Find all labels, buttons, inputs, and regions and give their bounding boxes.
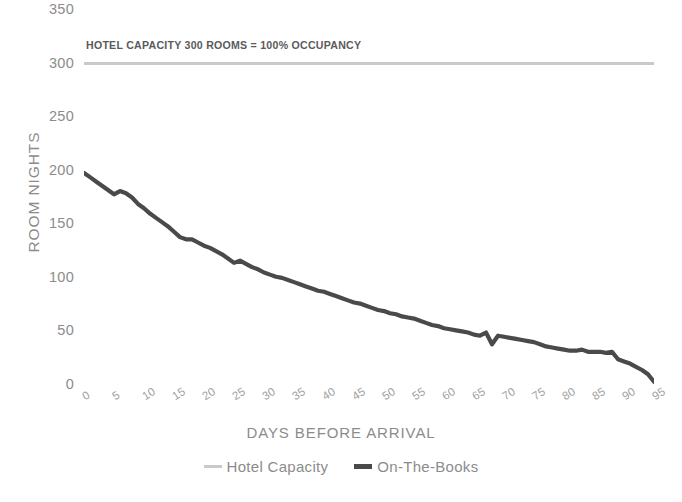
x-tick-50: 50 <box>380 385 397 402</box>
x-tick-65: 65 <box>470 385 487 402</box>
x-tick-85: 85 <box>590 385 607 402</box>
y-tick-350: 350 <box>28 1 74 17</box>
legend-item-on-the-books[interactable]: On-The-Books <box>354 458 478 475</box>
x-tick-70: 70 <box>500 385 517 402</box>
legend-swatch-icon <box>354 464 372 469</box>
x-tick-75: 75 <box>530 385 547 402</box>
x-tick-5: 5 <box>110 389 122 403</box>
x-tick-10: 10 <box>140 385 157 402</box>
y-tick-300: 300 <box>28 55 74 71</box>
legend-label: On-The-Books <box>377 458 478 475</box>
x-tick-15: 15 <box>170 385 187 402</box>
x-tick-55: 55 <box>410 385 427 402</box>
x-axis-tick-labels: 05101520253035404550556065707580859095 <box>0 388 682 418</box>
x-tick-35: 35 <box>290 385 307 402</box>
plot-svg <box>84 10 654 385</box>
y-tick-150: 150 <box>28 215 74 231</box>
series-line-on-the-books <box>84 173 654 382</box>
plot-area <box>84 10 654 385</box>
chart-legend: Hotel CapacityOn-The-Books <box>0 458 682 475</box>
x-tick-60: 60 <box>440 385 457 402</box>
chart-container: ROOM NIGHTS 350300250200150100500 HOTEL … <box>0 0 682 502</box>
x-tick-95: 95 <box>650 385 667 402</box>
x-axis-title: DAYS BEFORE ARRIVAL <box>0 424 682 441</box>
y-tick-250: 250 <box>28 108 74 124</box>
y-tick-50: 50 <box>28 322 74 338</box>
x-tick-25: 25 <box>230 385 247 402</box>
legend-label: Hotel Capacity <box>227 458 329 475</box>
x-tick-40: 40 <box>320 385 337 402</box>
legend-item-hotel-capacity[interactable]: Hotel Capacity <box>204 458 329 475</box>
x-tick-45: 45 <box>350 385 367 402</box>
x-tick-80: 80 <box>560 385 577 402</box>
x-tick-90: 90 <box>620 385 637 402</box>
x-tick-20: 20 <box>200 385 217 402</box>
y-tick-100: 100 <box>28 269 74 285</box>
legend-swatch-icon <box>204 465 222 468</box>
x-tick-0: 0 <box>80 389 92 403</box>
y-tick-200: 200 <box>28 162 74 178</box>
x-tick-30: 30 <box>260 385 277 402</box>
